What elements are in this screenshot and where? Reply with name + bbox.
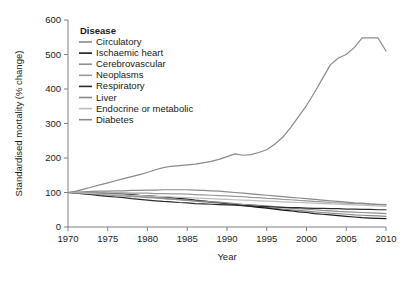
legend-label-liver: Liver: [96, 92, 117, 103]
x-tick-label: 1980: [137, 233, 158, 244]
legend-label-circulatory: Circulatory: [96, 36, 142, 47]
x-tick-label: 1995: [256, 233, 277, 244]
x-tick-label: 1985: [177, 233, 198, 244]
y-axis-title: Standardised mortality (% change): [13, 51, 24, 197]
x-tick-label: 2000: [296, 233, 317, 244]
y-tick-label: 200: [45, 152, 61, 163]
y-tick-label: 0: [56, 221, 61, 232]
legend-label-ischaemic-heart: Ischaemic heart: [96, 47, 163, 58]
legend-label-cerebrovascular: Cerebrovascular: [96, 58, 166, 69]
x-axis-title: Year: [217, 251, 236, 262]
line-chart-svg: 0100200300400500600197019751980198519901…: [0, 0, 416, 282]
y-tick-label: 500: [45, 49, 61, 60]
y-tick-label: 400: [45, 83, 61, 94]
legend-label-endocrine-or-metabolic: Endocrine or metabolic: [96, 103, 193, 114]
x-tick-label: 2010: [375, 233, 396, 244]
x-tick-label: 2005: [336, 233, 357, 244]
legend-label-diabetes: Diabetes: [96, 114, 134, 125]
legend-title: Disease: [80, 25, 116, 36]
legend-layer: DiseaseCirculatoryIschaemic heartCerebro…: [79, 25, 193, 125]
legend-label-neoplasms: Neoplasms: [96, 69, 144, 80]
y-tick-label: 100: [45, 187, 61, 198]
legend-label-respiratory: Respiratory: [96, 80, 145, 91]
x-tick-label: 1975: [97, 233, 118, 244]
chart-figure: 0100200300400500600197019751980198519901…: [0, 0, 416, 282]
x-tick-label: 1970: [57, 233, 78, 244]
y-tick-label: 300: [45, 118, 61, 129]
y-tick-label: 600: [45, 14, 61, 25]
x-tick-label: 1990: [216, 233, 237, 244]
